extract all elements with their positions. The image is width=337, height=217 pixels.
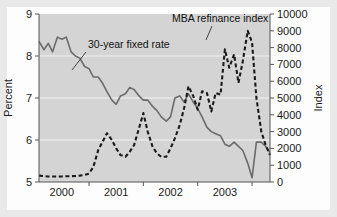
y2-axis-tick-label: 0 [277,176,283,188]
x-axis-tick-label: 2002 [158,186,182,198]
y2-axis-tick-label: 2000 [277,142,301,154]
y2-axis-tick-label: 9000 [277,25,301,37]
y-axis-tick-label: 9 [26,8,32,20]
y-axis-tick-label: 6 [26,134,32,146]
y2-axis-tick-label: 8000 [277,42,301,54]
y-axis-tick-label: 5 [26,176,32,188]
annotation-mba-refinance-index: MBA refinance index [172,12,269,24]
y2-axis-title: Index [312,84,324,111]
y2-axis-tick-label: 6000 [277,75,301,87]
y2-axis-tick-label: 5000 [277,92,301,104]
y2-axis-tick-label: 10000 [277,8,308,20]
chart-container: 5678901000200030004000500060007000800090… [0,0,337,217]
y2-axis-tick-label: 1000 [277,159,301,171]
y2-axis-tick-label: 4000 [277,109,301,121]
y-axis-title: Percent [2,79,14,117]
y-axis-tick-label: 8 [26,50,32,62]
x-axis-tick-label: 2003 [213,186,237,198]
x-axis-tick-label: 2000 [50,186,74,198]
y2-axis-tick-label: 3000 [277,126,301,138]
annotation-30-year-fixed-rate: 30-year fixed rate [88,38,170,50]
line-chart: 5678901000200030004000500060007000800090… [0,0,337,217]
x-axis-tick-label: 2001 [104,186,128,198]
y2-axis-tick-label: 7000 [277,58,301,70]
y-axis-tick-label: 7 [26,92,32,104]
